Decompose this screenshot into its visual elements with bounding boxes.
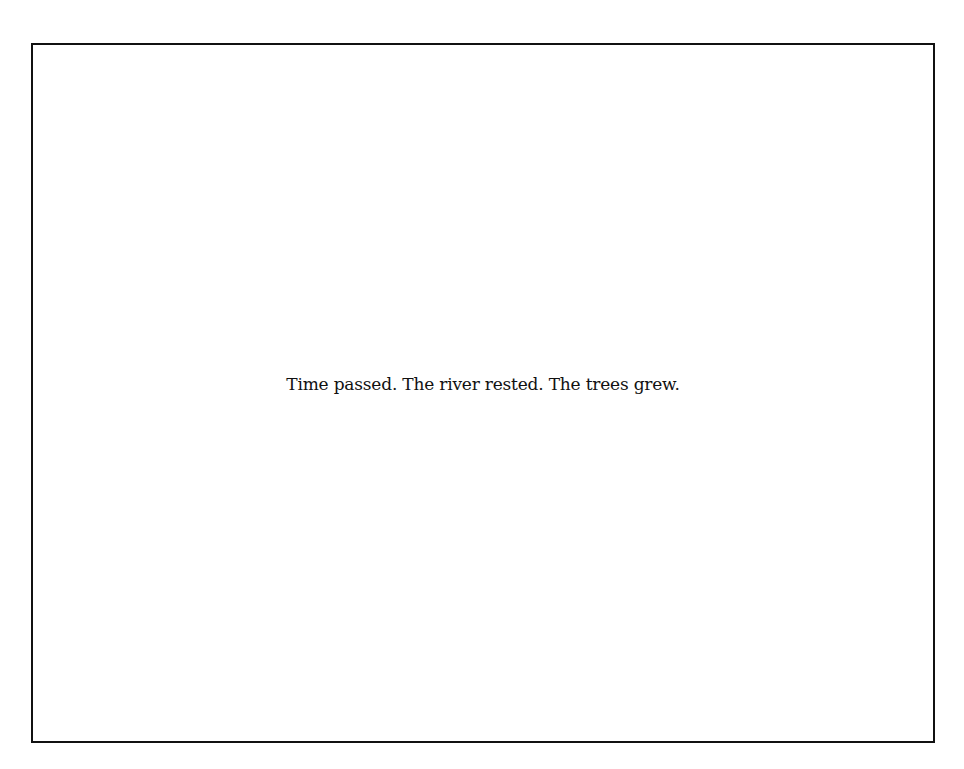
story-frame: Time passed. The river rested. The trees… [31, 43, 935, 743]
story-caption: Time passed. The river rested. The trees… [33, 374, 933, 394]
